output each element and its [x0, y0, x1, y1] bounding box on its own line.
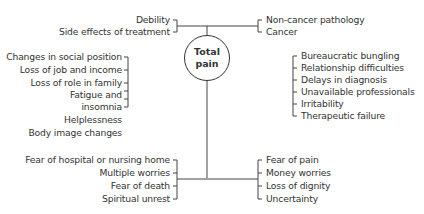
label-unavailable: Unavailable professionals — [301, 86, 415, 98]
label-debility: Debility — [136, 14, 170, 26]
label-spiritual-unrest: Spiritual unrest — [102, 193, 170, 205]
label-body-image: Body image changes — [28, 127, 122, 139]
label-cancer: Cancer — [266, 26, 297, 38]
label-fatigue: Fatigue and — [70, 89, 122, 101]
label-loss-job: Loss of job and income — [20, 64, 122, 76]
center-line1: Total — [194, 46, 220, 57]
label-therapeutic-failure: Therapeutic failure — [301, 110, 385, 122]
label-uncertainty: Uncertainty — [266, 193, 318, 205]
label-irritability: Irritability — [301, 98, 344, 110]
label-social-position: Changes in social position — [6, 51, 122, 63]
label-money-worries: Money worries — [266, 167, 331, 179]
label-loss-role: Loss of role in family — [30, 77, 122, 89]
label-fear-hospital: Fear of hospital or nursing home — [25, 154, 170, 166]
label-delays: Delays in diagnosis — [301, 74, 387, 86]
label-loss-dignity: Loss of dignity — [266, 180, 330, 192]
label-fear-death: Fear of death — [111, 180, 170, 192]
label-fear-pain: Fear of pain — [266, 154, 319, 166]
label-relationship: Relationship difficulties — [301, 62, 404, 74]
label-bureaucratic: Bureaucratic bungling — [301, 50, 399, 62]
label-non-cancer-pathology: Non-cancer pathology — [266, 14, 365, 26]
label-insomnia: insomnia — [81, 101, 122, 113]
center-line2: pain — [195, 58, 218, 69]
label-helplessness: Helplessness — [64, 114, 122, 126]
total-pain-node: Total pain — [184, 35, 230, 81]
label-multiple-worries: Multiple worries — [99, 167, 170, 179]
label-side-effects: Side effects of treatment — [59, 26, 170, 38]
